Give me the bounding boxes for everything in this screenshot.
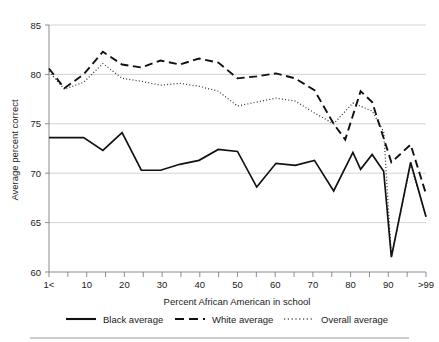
- chart-legend: Black average White average Overall aver…: [66, 314, 388, 325]
- x-tick-marks: [49, 272, 426, 277]
- x-tick-label: 90: [383, 279, 394, 290]
- x-tick-label: 80: [345, 279, 356, 290]
- x-tick-label: 1<: [44, 279, 55, 290]
- x-tick-label: 70: [308, 279, 319, 290]
- x-axis-title: Percent African American in school: [164, 296, 311, 307]
- y-tick-label: 65: [30, 217, 41, 228]
- y-tick-label: 70: [30, 168, 41, 179]
- figure-background: [0, 0, 439, 342]
- x-tick-label: 50: [232, 279, 243, 290]
- y-tick-label: 85: [30, 20, 41, 31]
- y-tick-label: 60: [30, 267, 41, 278]
- x-tick-label: 30: [157, 279, 168, 290]
- x-tick-label: 40: [195, 279, 206, 290]
- x-tick-label: >99: [418, 279, 434, 290]
- legend-label-overall-average: Overall average: [321, 314, 388, 325]
- y-tick-label: 75: [30, 118, 41, 129]
- y-tick-label: 80: [30, 69, 41, 80]
- y-axis-title: Average percent correct: [9, 99, 20, 201]
- x-tick-label: 10: [81, 279, 92, 290]
- x-tick-label: 60: [270, 279, 281, 290]
- x-tick-label: 20: [119, 279, 130, 290]
- legend-label-black-average: Black average: [103, 314, 163, 325]
- chart-figure: 85 80 75 70 65 60 1< 10 20 30 40: [0, 0, 439, 342]
- legend-label-white-average: White average: [212, 314, 273, 325]
